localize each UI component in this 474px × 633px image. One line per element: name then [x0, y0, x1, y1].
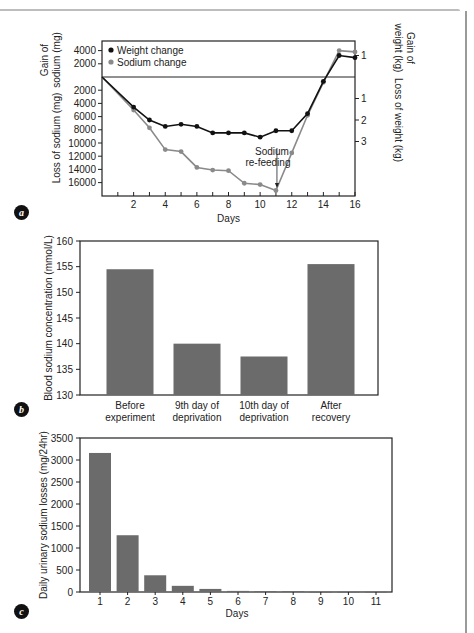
chart-a-left-tick-label: 4000	[74, 45, 97, 56]
chart-a-right-tick-label: 1	[361, 93, 367, 104]
annotation-sodium-refeeding-2: re-feeding	[245, 157, 290, 168]
sodium-change-point	[163, 147, 168, 152]
chart-c-y-tick-label: 1500	[51, 521, 74, 532]
chart-c-bar	[144, 575, 166, 592]
chart-c-x-tick-label: 4	[180, 596, 186, 607]
chart-b-y-axis-label: Blood sodium concentration (mmol/L)	[43, 235, 54, 401]
chart-c-bar	[117, 535, 139, 592]
chart-a-right-title-gain-1: Gain of	[405, 32, 416, 64]
chart-b-category-label: deprivation	[240, 412, 289, 423]
chart-a-x-tick-label: 10	[255, 199, 267, 210]
chart-c-bar	[282, 591, 304, 592]
chart-b-category-label: After	[320, 400, 342, 411]
chart-a-left-tick-label: 4000	[74, 98, 97, 109]
weight-change-point	[321, 79, 326, 84]
chart-b-category-label: 10th day of	[239, 400, 289, 411]
weight-change-point	[353, 55, 358, 60]
chart-a-x-axis-label: Days	[217, 213, 240, 224]
chart-a-right-title-loss: Loss of weight (kg)	[393, 78, 404, 162]
chart-c-y-tick-label: 500	[56, 565, 73, 576]
chart-a-left-tick-label: 8000	[74, 124, 97, 135]
sodium-change-point	[242, 181, 247, 186]
legend-weight-marker	[108, 47, 113, 52]
weight-change-point	[147, 118, 152, 123]
chart-b-bar	[174, 344, 221, 395]
weight-change-point	[274, 128, 279, 133]
chart-c-bar	[227, 591, 249, 592]
chart-b-category-label: 9th day of	[175, 400, 219, 411]
chart-a-left-tick-label: 10000	[68, 138, 96, 149]
panel-label-b: b	[14, 402, 29, 417]
chart-c-x-tick-label: 5	[208, 596, 214, 607]
legend-sodium-marker	[108, 59, 113, 64]
chart-c-x-tick-label: 3	[152, 596, 158, 607]
weight-change-point	[258, 135, 263, 140]
chart-b-y-tick-label: 160	[56, 236, 73, 247]
annotation-sodium-refeeding-1: Sodium	[255, 146, 289, 157]
sodium-change-point	[274, 188, 279, 193]
chart-c-x-tick-label: 10	[343, 596, 355, 607]
chart-a-left-tick-label: 2000	[74, 85, 97, 96]
chart-c-y-tick-label: 1000	[51, 543, 74, 554]
sodium-change-point	[258, 182, 263, 187]
chart-c-y-tick-label: 2000	[51, 499, 74, 510]
chart-b-bar	[308, 264, 355, 395]
chart-c-x-tick-label: 7	[263, 596, 269, 607]
weight-change-point	[210, 131, 215, 136]
chart-b-category-label: recovery	[312, 412, 350, 423]
chart-c-bar	[172, 586, 194, 592]
chart-c-x-tick-label: 9	[318, 596, 324, 607]
weight-change-point	[289, 128, 294, 133]
weight-change-point	[242, 131, 247, 136]
chart-b-category-label: deprivation	[173, 412, 222, 423]
chart-b-y-tick-label: 135	[56, 364, 73, 375]
chart-b-y-tick-label: 140	[56, 338, 73, 349]
chart-c-y-tick-label: 3000	[51, 455, 74, 466]
chart-b-bar	[107, 269, 154, 395]
weight-change-point	[305, 111, 310, 116]
chart-b-y-tick-label: 130	[56, 390, 73, 401]
sodium-change-point	[289, 151, 294, 156]
chart-c-bar	[255, 591, 277, 592]
weight-change-point	[179, 122, 184, 127]
chart-c-x-tick-label: 6	[235, 596, 241, 607]
weight-change-point	[163, 124, 168, 129]
chart-a-right-tick-label: 3	[361, 136, 367, 147]
chart-a-left-tick-label: 14000	[68, 164, 96, 175]
chart-c-x-tick-label: 1	[97, 596, 103, 607]
panel-label-c: c	[14, 604, 29, 619]
chart-a-x-tick-label: 4	[162, 199, 168, 210]
sodium-change-point	[226, 168, 231, 173]
chart-a-right-tick-label: 2	[361, 115, 367, 126]
sodium-change-point	[353, 50, 358, 55]
chart-b-category-label: Before	[115, 400, 145, 411]
chart-a-x-tick-label: 16	[349, 199, 361, 210]
chart-a-left-tick-label: 12000	[68, 151, 96, 162]
weight-change-point	[226, 131, 231, 136]
chart-a-weight-sodium-change: 4000200020004000600080001000012000140001…	[0, 0, 474, 633]
chart-b-y-tick-label: 155	[56, 261, 73, 272]
chart-c-bar	[199, 589, 221, 592]
chart-a-left-tick-label: 6000	[74, 111, 97, 122]
chart-b-category-label: experiment	[105, 412, 155, 423]
chart-c-y-tick-label: 3500	[51, 433, 74, 444]
chart-b-bar	[241, 357, 288, 396]
weight-change-point	[194, 124, 199, 129]
legend-sodium-label: Sodium change	[117, 57, 187, 68]
chart-a-x-tick-label: 6	[194, 199, 200, 210]
chart-b-y-tick-label: 145	[56, 313, 73, 324]
sodium-change-point	[210, 168, 215, 173]
chart-a-x-tick-label: 2	[131, 199, 137, 210]
chart-c-y-tick-label: 0	[67, 587, 73, 598]
weight-change-point	[337, 53, 342, 58]
chart-c-x-tick-label: 8	[290, 596, 296, 607]
panel-label-a: a	[14, 205, 29, 220]
chart-c-x-axis-label: Days	[226, 608, 249, 619]
chart-a-left-tick-label: 16000	[68, 177, 96, 188]
weight-change-point	[131, 105, 136, 110]
chart-a-right-tick-label: 1	[361, 50, 367, 61]
sodium-change-point	[194, 165, 199, 170]
chart-c-bar	[89, 453, 111, 592]
chart-a-x-tick-label: 14	[318, 199, 330, 210]
sodium-change-point	[147, 125, 152, 130]
